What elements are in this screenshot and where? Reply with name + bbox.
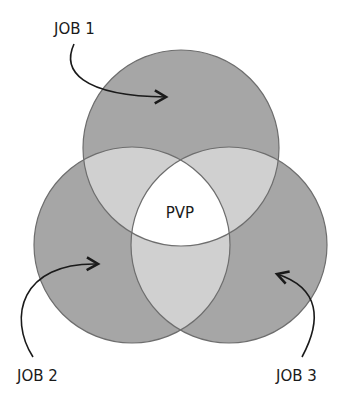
venn-diagram: JOB 1 JOB 2 JOB 3 PVP bbox=[0, 0, 346, 407]
label-job-3: JOB 3 bbox=[275, 367, 317, 385]
label-center-pvp: PVP bbox=[166, 204, 194, 222]
label-job-2: JOB 2 bbox=[16, 367, 58, 385]
label-job-1: JOB 1 bbox=[53, 20, 95, 38]
